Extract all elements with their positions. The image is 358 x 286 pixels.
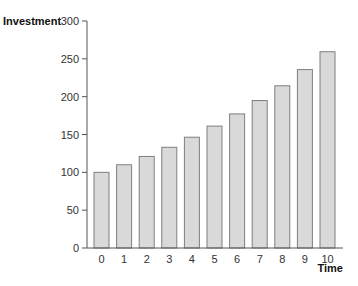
bar-10: [320, 52, 335, 248]
x-tick-label: 4: [189, 253, 195, 265]
bar-1: [117, 165, 132, 248]
x-tick-label: 2: [144, 253, 150, 265]
bar-6: [230, 114, 245, 248]
y-tick-label: 0: [73, 242, 79, 254]
y-tick-label: 200: [61, 91, 79, 103]
y-tick-label: 150: [61, 129, 79, 141]
y-axis: 050100150200250300: [61, 15, 87, 254]
bar-0: [94, 172, 109, 248]
x-tick-label: 6: [234, 253, 240, 265]
bar-5: [207, 126, 222, 248]
bar-8: [275, 86, 290, 248]
bar-3: [162, 147, 177, 248]
y-axis-label: Investment: [3, 15, 61, 27]
x-tick-label: 8: [279, 253, 285, 265]
bar-4: [184, 137, 199, 248]
x-tick-label: 3: [166, 253, 172, 265]
y-tick-label: 300: [61, 15, 79, 27]
y-tick-label: 50: [67, 204, 79, 216]
x-tick-label: 1: [121, 253, 127, 265]
y-tick-label: 250: [61, 53, 79, 65]
bar-2: [139, 156, 154, 248]
y-tick-label: 100: [61, 166, 79, 178]
x-axis-label: Time: [318, 262, 343, 274]
x-tick-label: 0: [98, 253, 104, 265]
x-axis: 012345678910: [87, 248, 343, 265]
bar-9: [297, 70, 312, 248]
x-tick-label: 5: [211, 253, 217, 265]
x-tick-label: 9: [302, 253, 308, 265]
bar-7: [252, 101, 267, 248]
bars: [94, 52, 335, 248]
x-tick-label: 7: [257, 253, 263, 265]
bar-chart: 050100150200250300 012345678910 Investme…: [0, 0, 358, 286]
